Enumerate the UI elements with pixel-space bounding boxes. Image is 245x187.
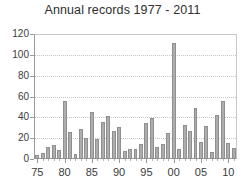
chart-title: Annual records 1977 - 2011	[0, 3, 245, 18]
x-minor-tick-mark	[86, 159, 87, 161]
bar	[139, 144, 143, 159]
chart-container: Annual records 1977 - 2011 0204060801001…	[0, 0, 245, 187]
x-tick-mark	[65, 159, 66, 163]
bar	[161, 144, 165, 159]
x-minor-tick-mark	[70, 159, 71, 161]
x-minor-tick-mark	[97, 159, 98, 161]
x-minor-tick-mark	[190, 159, 191, 161]
x-minor-tick-mark	[141, 159, 142, 161]
bar	[194, 108, 198, 159]
x-minor-tick-mark	[152, 159, 153, 161]
y-tick-label: 20	[3, 133, 29, 143]
x-minor-tick-mark	[196, 159, 197, 161]
x-minor-tick-mark	[234, 159, 235, 161]
bar	[177, 149, 181, 159]
x-tick-label: 95	[134, 166, 158, 178]
y-tick-label: 120	[3, 29, 29, 39]
bar	[183, 125, 187, 159]
bar	[52, 145, 56, 159]
bar	[128, 149, 132, 159]
x-minor-tick-mark	[114, 159, 115, 161]
bar	[84, 138, 88, 159]
x-minor-tick-mark	[54, 159, 55, 161]
bar	[232, 148, 236, 159]
bar	[166, 133, 170, 159]
bar	[155, 147, 159, 160]
x-minor-tick-mark	[212, 159, 213, 161]
x-minor-tick-mark	[59, 159, 60, 161]
x-minor-tick-mark	[103, 159, 104, 161]
x-minor-tick-mark	[168, 159, 169, 161]
x-tick-mark	[119, 159, 120, 163]
bar	[106, 116, 110, 159]
bar	[46, 147, 50, 160]
x-minor-tick-mark	[206, 159, 207, 161]
x-minor-tick-mark	[48, 159, 49, 161]
bar	[90, 112, 94, 159]
x-tick-label: 05	[189, 166, 213, 178]
y-tick-label: 0	[3, 154, 29, 164]
x-minor-tick-mark	[130, 159, 131, 161]
y-tick-mark	[30, 159, 34, 160]
x-minor-tick-mark	[157, 159, 158, 161]
x-minor-tick-mark	[75, 159, 76, 161]
y-tick-label: 40	[3, 112, 29, 122]
x-tick-mark	[92, 159, 93, 163]
x-minor-tick-mark	[217, 159, 218, 161]
bar	[221, 101, 225, 159]
x-tick-mark	[146, 159, 147, 163]
bar	[134, 149, 138, 159]
bar	[226, 143, 230, 159]
bar	[210, 152, 214, 159]
bar	[95, 139, 99, 159]
x-tick-label: 80	[53, 166, 77, 178]
x-tick-label: 85	[80, 166, 104, 178]
x-tick-label: 90	[107, 166, 131, 178]
x-minor-tick-mark	[43, 159, 44, 161]
x-minor-tick-mark	[136, 159, 137, 161]
x-minor-tick-mark	[163, 159, 164, 161]
y-tick-mark	[30, 97, 34, 98]
bar	[79, 129, 83, 159]
y-tick-label: 60	[3, 92, 29, 102]
x-minor-tick-mark	[108, 159, 109, 161]
bar	[123, 151, 127, 159]
bar	[68, 132, 72, 159]
bar	[172, 43, 176, 159]
y-tick-label: 100	[3, 50, 29, 60]
x-minor-tick-mark	[223, 159, 224, 161]
bar	[215, 115, 219, 159]
bar	[199, 142, 203, 159]
x-tick-label: 75	[25, 166, 49, 178]
bar	[188, 131, 192, 159]
x-tick-mark	[37, 159, 38, 163]
bar	[63, 101, 67, 159]
bar-series	[35, 34, 237, 159]
x-minor-tick-mark	[179, 159, 180, 161]
bar	[150, 118, 154, 159]
y-tick-label: 80	[3, 71, 29, 81]
x-tick-mark	[174, 159, 175, 163]
bar	[101, 122, 105, 160]
y-tick-mark	[30, 55, 34, 56]
y-tick-mark	[30, 76, 34, 77]
bar	[144, 123, 148, 159]
x-minor-tick-mark	[185, 159, 186, 161]
y-tick-mark	[30, 34, 34, 35]
bar	[57, 150, 61, 159]
x-minor-tick-mark	[125, 159, 126, 161]
y-tick-mark	[30, 138, 34, 139]
bar	[112, 131, 116, 159]
x-minor-tick-mark	[81, 159, 82, 161]
x-tick-mark	[201, 159, 202, 163]
bar	[204, 126, 208, 159]
bar	[117, 127, 121, 159]
y-tick-mark	[30, 117, 34, 118]
x-tick-label: 10	[216, 166, 240, 178]
x-tick-mark	[228, 159, 229, 163]
x-tick-label: 00	[162, 166, 186, 178]
